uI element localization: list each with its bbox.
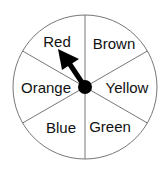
spinner: Red Brown Yellow Green Blue Orange (0, 0, 166, 170)
section-label-green: Green (89, 118, 131, 135)
spinner-hub (78, 80, 92, 94)
section-label-blue: Blue (46, 119, 76, 136)
section-label-orange: Orange (21, 79, 71, 96)
section-label-brown: Brown (93, 35, 136, 52)
section-label-red: Red (43, 33, 71, 50)
section-label-yellow: Yellow (106, 79, 149, 96)
